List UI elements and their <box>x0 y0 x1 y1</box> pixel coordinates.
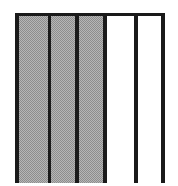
bar-5[interactable] <box>138 16 161 183</box>
bar-diagram-frame <box>15 13 165 183</box>
bars-row <box>15 16 165 183</box>
figure-canvas <box>0 0 178 186</box>
bar-3[interactable] <box>79 16 102 183</box>
bar-4[interactable] <box>107 16 134 183</box>
bar-divider-right-edge <box>161 16 165 183</box>
bar-1[interactable] <box>19 16 48 183</box>
bar-2[interactable] <box>51 16 75 183</box>
